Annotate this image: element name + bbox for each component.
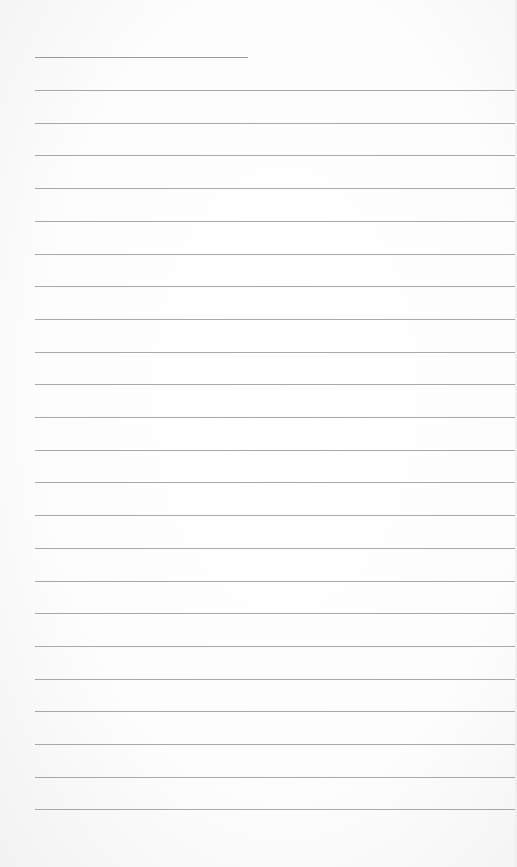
ruled-line — [35, 613, 516, 614]
ruled-line — [35, 286, 516, 287]
ruled-line — [35, 450, 516, 451]
ruled-line — [35, 548, 516, 549]
ruled-line — [35, 744, 516, 745]
ruled-line — [35, 123, 516, 124]
ruled-line — [35, 777, 516, 778]
ruled-line — [35, 221, 516, 222]
ruled-line — [35, 384, 516, 385]
ruled-line — [35, 711, 516, 712]
ruled-line — [35, 319, 516, 320]
ruled-line — [35, 90, 516, 91]
ruled-line — [35, 482, 516, 483]
ruled-line — [35, 679, 516, 680]
ruled-line — [35, 581, 516, 582]
ruled-paper-sheet — [0, 0, 517, 867]
ruled-line — [35, 809, 516, 810]
ruled-line — [35, 188, 516, 189]
ruled-line — [35, 515, 516, 516]
ruled-line — [35, 254, 516, 255]
ruled-line — [35, 352, 516, 353]
ruled-line — [35, 155, 516, 156]
title-line — [35, 57, 248, 58]
ruled-line — [35, 417, 516, 418]
ruled-line — [35, 646, 516, 647]
